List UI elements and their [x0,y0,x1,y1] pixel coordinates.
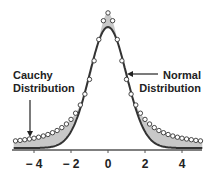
cauchy-marker [180,136,184,140]
cauchy-marker [18,138,22,142]
cauchy-marker [73,111,77,115]
cauchy-marker [110,19,114,23]
cauchy-label-line2: Distribution [13,82,75,95]
cauchy-marker [60,125,64,129]
cauchy-marker [152,125,156,129]
cauchy-marker [134,103,138,107]
cauchy-marker [27,137,31,141]
cauchy-marker [194,138,198,142]
x-tick-label: 2 [142,157,149,171]
cauchy-marker [101,19,105,23]
cauchy-marker [184,137,188,141]
cauchy-marker [171,134,175,138]
cauchy-marker [83,92,87,96]
cauchy-marker [87,77,91,81]
cauchy-marker [69,117,73,121]
x-tick-label: 0 [105,157,112,171]
cauchy-marker [50,131,54,135]
cauchy-marker [120,59,124,63]
cauchy-marker [78,103,82,107]
normal-label: Normal Distribution [139,69,201,95]
cauchy-marker [175,135,179,139]
cauchy-marker [157,128,161,132]
cauchy-marker [124,77,128,81]
cauchy-label: Cauchy Distribution [13,69,75,95]
cauchy-marker [23,138,27,142]
cauchy-marker [13,139,17,143]
cauchy-marker [106,11,110,15]
cauchy-marker [147,122,151,126]
normal-arrowhead-icon [127,71,133,77]
cauchy-marker [36,135,40,139]
normal-label-line1: Normal [139,69,201,82]
cauchy-marker [143,117,147,121]
cauchy-marker [189,138,193,142]
cauchy-marker [55,128,59,132]
cauchy-marker [92,59,96,63]
cauchy-marker [129,92,133,96]
cauchy-marker [97,37,101,41]
cauchy-arrowhead-icon [27,131,33,137]
x-tick-label: − 2 [62,157,79,171]
cauchy-marker [166,132,170,136]
cauchy-marker [138,111,142,115]
x-tick-label: 4 [179,157,186,171]
cauchy-marker [161,131,165,135]
cauchy-marker [64,122,68,126]
cauchy-marker [198,139,202,143]
cauchy-marker [46,132,50,136]
x-tick-label: − 4 [25,157,42,171]
cauchy-marker [41,134,45,138]
cauchy-label-line1: Cauchy [13,69,75,82]
cauchy-marker [32,136,36,140]
cauchy-marker [115,37,119,41]
normal-label-line2: Distribution [139,82,201,95]
